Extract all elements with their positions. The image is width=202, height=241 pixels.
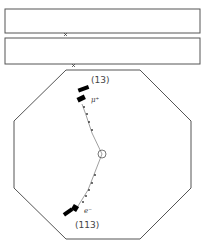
- outer-panel-top: [5, 9, 200, 33]
- event-display: (13) μ⁺ e⁻ (113): [0, 0, 202, 241]
- calo-hit-muon-2: [78, 85, 90, 93]
- calo-hit-electron-2: [63, 207, 73, 216]
- inner-detector-octagon: [14, 70, 191, 239]
- muon-id-label: (13): [91, 75, 109, 85]
- electron-id-label: (113): [75, 220, 99, 230]
- electron-particle-label: e⁻: [84, 207, 92, 215]
- muon-particle-label: μ⁺: [91, 96, 100, 104]
- outer-panel-bottom: [5, 38, 200, 64]
- calo-hit-muon-1: [77, 94, 86, 102]
- track-electron: [63, 154, 102, 217]
